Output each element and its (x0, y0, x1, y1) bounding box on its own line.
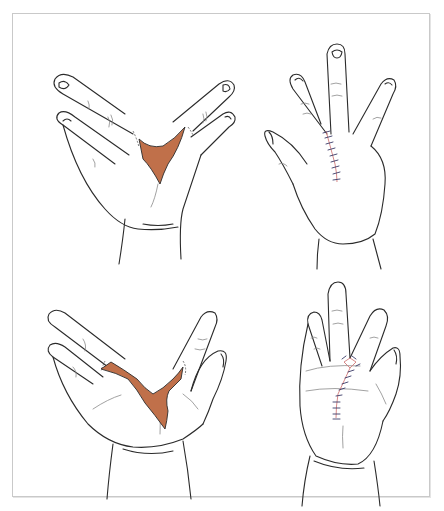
hand-illustration (33, 299, 233, 504)
figure-frame: Dorsal view, cleft hand with skin defect… (12, 13, 430, 497)
hand-illustration (33, 59, 223, 269)
hand-illustration (298, 276, 428, 509)
panel-bottom-left: Palmar view, cleft hand with skin defect… (33, 299, 233, 504)
panel-top-right: Dorsal view after cleft closure with sut… (253, 34, 428, 269)
skin-defect (139, 127, 185, 184)
skin-defect (101, 362, 183, 429)
panel-top-left: Dorsal view, cleft hand with skin defect… (33, 59, 223, 269)
panel-bottom-right: Palmar view after cleft closure with sut… (298, 276, 428, 509)
sutures (323, 131, 340, 180)
hand-illustration (253, 34, 428, 269)
